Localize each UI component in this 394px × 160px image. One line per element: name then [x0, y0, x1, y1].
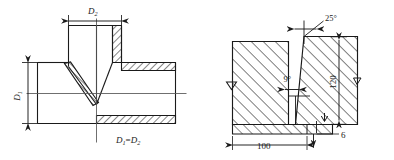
- label-bevel-angle: 25°: [325, 13, 337, 23]
- dimension-bevel-angle: 25°: [295, 13, 337, 30]
- branch-wall-section-hatch: [113, 26, 122, 63]
- label-run-diameter: D1: [12, 91, 23, 102]
- dimension-branch-diameter: D2: [69, 6, 122, 28]
- weld-fillet-section-hatch: [65, 62, 99, 106]
- run-top-wall-section-hatch: [122, 63, 176, 71]
- run-bottom-wall-section-hatch: [97, 116, 176, 124]
- figure-tee-joint: D2 D1 D1=D2: [0, 0, 197, 160]
- tee-joint-svg: D2 D1 D1=D2: [0, 0, 197, 160]
- left-plate-section: [233, 42, 289, 125]
- run-pipe-outline: [38, 63, 176, 124]
- label-backing-width: 100: [257, 141, 271, 151]
- figure-butt-joint: 25° 9° 120 100: [197, 0, 394, 160]
- dimension-run-diameter: D1: [12, 63, 41, 124]
- label-plate-height: 120: [328, 75, 338, 89]
- label-root-angle: 9°: [284, 74, 292, 84]
- label-backing-thickness: 6: [341, 130, 346, 140]
- label-branch-diameter: D2: [87, 6, 98, 17]
- backing-strip-section: [233, 125, 333, 135]
- note-diameter-equality: D1=D2: [115, 135, 140, 146]
- right-plate-section: [296, 37, 358, 125]
- dimension-backing-width: 100: [233, 136, 308, 151]
- drawing-sheet: D2 D1 D1=D2: [0, 0, 394, 160]
- butt-joint-svg: 25° 9° 120 100: [197, 0, 394, 160]
